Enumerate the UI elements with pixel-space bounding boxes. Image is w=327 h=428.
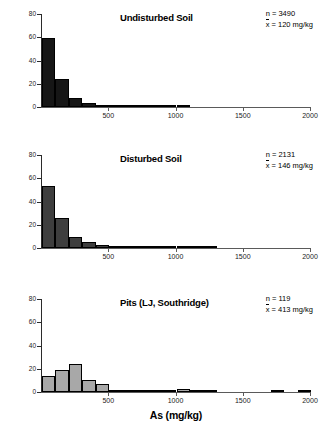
x-tick-label: 1500 <box>235 112 251 119</box>
y-tick-label: 20 <box>29 81 36 88</box>
y-tick-label: 80 <box>29 296 36 303</box>
x-tick-mark <box>310 249 311 252</box>
y-tick-label: 60 <box>29 319 36 326</box>
histogram-bar <box>123 105 136 107</box>
y-tick-mark <box>37 37 41 38</box>
histogram-bar <box>136 246 149 248</box>
x-tick-mark <box>176 393 177 396</box>
histogram-bar <box>136 105 149 107</box>
y-tick-mark <box>37 61 41 62</box>
y-tick-mark <box>37 392 41 393</box>
x-tick-label: 2000 <box>302 397 318 404</box>
histogram-bar <box>96 384 109 392</box>
x-tick-label: 1500 <box>235 253 251 260</box>
y-tick-label: 40 <box>29 57 36 64</box>
y-tick-mark <box>37 84 41 85</box>
histogram-bar <box>109 105 122 107</box>
y-tick-label: 60 <box>29 175 36 182</box>
histogram-figure: Frequency (%) Undisturbed Soil n = 3490 … <box>0 0 327 428</box>
histogram-bar <box>96 105 109 107</box>
y-tick-label: 40 <box>29 198 36 205</box>
x-tick-label: 2000 <box>302 253 318 260</box>
y-tick-mark <box>37 299 41 300</box>
x-tick-label: 500 <box>102 253 114 260</box>
histogram-bar <box>42 376 55 392</box>
histogram-bar <box>42 186 55 248</box>
plot-area: 020406080500100015002000 <box>41 299 311 393</box>
y-tick-label: 0 <box>32 389 36 396</box>
y-tick-mark <box>37 202 41 203</box>
y-tick-mark <box>37 322 41 323</box>
histogram-bar <box>109 390 122 392</box>
histogram-bar <box>69 237 82 248</box>
y-tick-label: 40 <box>29 342 36 349</box>
y-tick-mark <box>37 107 41 108</box>
y-tick-label: 0 <box>32 245 36 252</box>
x-tick-mark <box>176 249 177 252</box>
histogram-bar <box>136 390 149 392</box>
histogram-bar <box>96 245 109 248</box>
y-tick-mark <box>37 178 41 179</box>
histogram-bar <box>177 389 190 392</box>
chart-panel-undisturbed-soil: Frequency (%) Undisturbed Soil n = 3490 … <box>0 0 327 143</box>
x-tick-label: 2000 <box>302 112 318 119</box>
histogram-bar <box>69 98 82 107</box>
histogram-bar <box>271 390 284 392</box>
histogram-bar <box>123 390 136 392</box>
y-tick-label: 20 <box>29 366 36 373</box>
y-tick-mark <box>37 155 41 156</box>
y-tick-label: 0 <box>32 104 36 111</box>
x-tick-label: 1500 <box>235 397 251 404</box>
histogram-bar <box>177 246 190 248</box>
chart-panel-pits: Frequency (%) Pits (LJ, Southridge) n = … <box>0 285 327 428</box>
x-tick-mark <box>310 393 311 396</box>
x-tick-mark <box>243 108 244 111</box>
y-tick-label: 80 <box>29 152 36 159</box>
y-tick-mark <box>37 225 41 226</box>
histogram-bar <box>177 105 190 107</box>
histogram-bar <box>123 246 136 248</box>
histogram-bar <box>190 246 203 248</box>
histogram-bar <box>203 390 216 392</box>
y-tick-mark <box>37 14 41 15</box>
histogram-bar <box>82 103 95 107</box>
x-tick-label: 500 <box>102 397 114 404</box>
histogram-bar <box>203 246 216 248</box>
x-axis-title: As (mg/kg) <box>41 409 311 421</box>
x-tick-label: 1000 <box>168 112 184 119</box>
histogram-bar <box>42 38 55 107</box>
plot-area: 020406080500100015002000 <box>41 14 311 108</box>
x-tick-mark <box>108 249 109 252</box>
y-tick-mark <box>37 248 41 249</box>
histogram-bar <box>69 364 82 392</box>
y-tick-mark <box>37 346 41 347</box>
bar-series <box>42 14 311 107</box>
x-tick-mark <box>243 249 244 252</box>
x-tick-mark <box>310 108 311 111</box>
histogram-bar <box>150 105 163 107</box>
histogram-bar <box>190 390 203 392</box>
x-tick-label: 1000 <box>168 253 184 260</box>
histogram-bar <box>163 390 176 392</box>
histogram-bar <box>55 79 68 107</box>
histogram-bar <box>55 218 68 248</box>
x-tick-mark <box>108 393 109 396</box>
histogram-bar <box>82 380 95 392</box>
x-tick-mark <box>243 393 244 396</box>
y-tick-label: 20 <box>29 222 36 229</box>
x-tick-mark <box>176 108 177 111</box>
bar-series <box>42 155 311 248</box>
x-tick-label: 1000 <box>168 397 184 404</box>
x-tick-label: 500 <box>102 112 114 119</box>
histogram-bar <box>109 246 122 248</box>
histogram-bar <box>150 390 163 392</box>
histogram-bar <box>82 242 95 248</box>
y-tick-mark <box>37 369 41 370</box>
histogram-bar <box>163 105 176 107</box>
y-tick-label: 60 <box>29 34 36 41</box>
histogram-bar <box>55 370 68 392</box>
histogram-bar <box>163 246 176 248</box>
bar-series <box>42 299 311 392</box>
y-tick-label: 80 <box>29 11 36 18</box>
chart-panel-disturbed-soil: Frequency (%) Disturbed Soil n = 2131 x … <box>0 141 327 284</box>
